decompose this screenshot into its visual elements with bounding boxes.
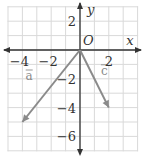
y-axis-arrow-up-icon	[77, 2, 83, 9]
y-tick-label: 2	[68, 14, 76, 29]
y-tick-label: −2	[57, 72, 76, 87]
x-axis-arrow-left-icon	[3, 47, 10, 53]
x-axis-arrow-right-icon	[135, 47, 142, 53]
y-tick-label: −6	[57, 129, 76, 144]
origin-label: O	[83, 33, 94, 48]
vector-a-label: a	[26, 69, 33, 83]
x-tick-label: −4	[10, 54, 29, 69]
x-axis-label: x	[126, 33, 134, 48]
coordinate-plane: ac x y O −4−222−2−4−6	[0, 0, 146, 160]
y-tick-label: −4	[57, 101, 76, 116]
x-tick-label: −2	[39, 54, 58, 69]
y-axis-label: y	[86, 2, 95, 17]
x-tick-label: 2	[105, 54, 113, 69]
y-axis-arrow-down-icon	[77, 149, 83, 156]
